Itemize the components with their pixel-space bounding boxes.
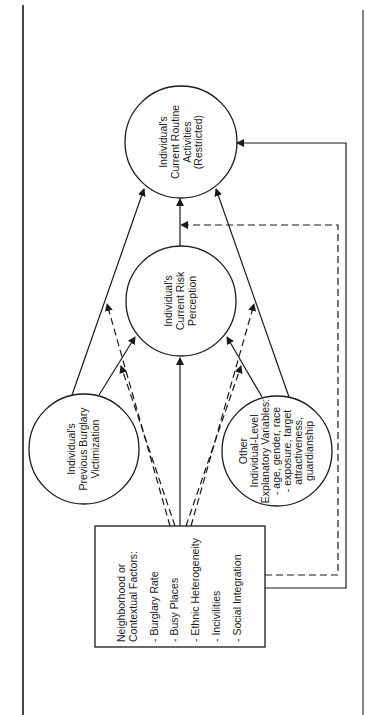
label-line: Perception — [187, 272, 199, 330]
label-previous-victimization: Individual's Previous Burglary Victimiza… — [66, 408, 101, 491]
box-title-line: Contextual Factors: — [128, 530, 140, 642]
factor-item: - Busy Places — [170, 530, 182, 642]
label-neighborhood-factors: Neighborhood or Contextual Factors: - Bu… — [116, 530, 243, 642]
label-line: Individual's — [163, 272, 175, 330]
label-other-variables: Other Individual-Level Explanatory Varia… — [238, 399, 315, 503]
label-line: (Restricted) — [193, 105, 205, 179]
label-line: Individual's — [66, 408, 78, 491]
label-routine-activities: Individual's Current Routine Activities … — [158, 105, 205, 179]
edge-neighborhood-to-routine-solid-loop — [237, 143, 346, 588]
box-title-line: Neighborhood or — [116, 530, 128, 642]
factor-item: - Ethnic Heterogeneity — [190, 530, 202, 642]
label-line: Current Routine — [169, 105, 181, 179]
edge-dashed-to-victim-risk-path — [121, 366, 175, 526]
edge-victimization-to-risk — [99, 337, 135, 395]
factor-item: - Social Integration — [232, 530, 244, 642]
path-model-diagram: Individual's Current Routine Activities … — [0, 0, 365, 715]
edge-other-to-risk — [227, 337, 262, 397]
label-line: Victimization — [90, 408, 102, 491]
label-line: Individual's — [158, 105, 170, 179]
label-risk-perception: Individual's Current Risk Perception — [163, 272, 198, 330]
edge-victimization-to-routine — [72, 189, 144, 395]
label-line: Current Risk — [175, 272, 187, 330]
edge-other-to-routine — [216, 189, 289, 397]
factor-item: - Burglary Rate — [149, 530, 161, 642]
label-line: guardianship — [305, 399, 316, 503]
factor-item: - Incivilities — [211, 530, 223, 642]
label-line: Previous Burglary — [78, 408, 90, 491]
